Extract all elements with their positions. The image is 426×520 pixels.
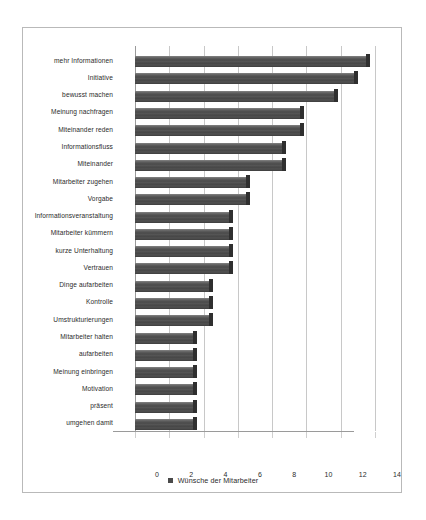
bar [135, 91, 334, 102]
gridline-6 [238, 46, 239, 431]
bar-end-cap [300, 123, 304, 136]
chart-frame: mehr InformationenInitiativebewusst mach… [22, 27, 402, 493]
bar-end-cap [209, 313, 213, 326]
bar [135, 350, 193, 361]
category-label: Mitarbeiter zugehen [28, 178, 113, 186]
bar [135, 177, 246, 188]
category-label: Informationsveranstaltung [28, 212, 113, 220]
x-axis-line [113, 431, 354, 432]
category-label: präsent [28, 402, 113, 410]
category-label: Informationsfluss [28, 143, 113, 151]
bar [135, 315, 209, 326]
axis-tick-mark [135, 432, 136, 438]
bar [135, 333, 193, 344]
bar [135, 194, 246, 205]
category-label: Meinung nachfragen [28, 108, 113, 116]
bar-end-cap [300, 106, 304, 119]
bar-end-cap [193, 417, 197, 430]
bar [135, 229, 229, 240]
bar-end-cap [193, 348, 197, 361]
bar [135, 402, 193, 413]
category-label: Vorgabe [28, 195, 113, 203]
bar-end-cap [229, 227, 233, 240]
bar [135, 384, 193, 395]
axis-tick-mark [238, 432, 239, 438]
bar-end-cap [229, 244, 233, 257]
gridline-12 [341, 46, 342, 431]
category-label: Dinge aufarbeiten [28, 281, 113, 289]
bar-end-cap [282, 158, 286, 171]
bar [135, 125, 300, 136]
bar-end-cap [246, 175, 250, 188]
bar [135, 73, 354, 84]
bar-end-cap [366, 54, 370, 67]
category-label: Miteinander [28, 160, 113, 168]
gridline-10 [306, 46, 307, 431]
category-label: kurze Unterhaltung [28, 247, 113, 255]
bar [135, 108, 300, 119]
plot-area [113, 51, 381, 443]
category-label: Mitarbeiter kümmern [28, 229, 113, 237]
axis-tick-mark [306, 432, 307, 438]
bar-end-cap [193, 382, 197, 395]
bar-end-cap [193, 331, 197, 344]
bar [135, 56, 366, 67]
bar [135, 263, 229, 274]
category-label: umgehen damit [28, 419, 113, 427]
bars-layer [135, 51, 375, 431]
category-label: Kontrolle [28, 298, 113, 306]
legend-label: Wünsche der Mitarbeiter [178, 476, 259, 485]
bar [135, 160, 282, 171]
category-label: mehr Informationen [28, 57, 113, 65]
axis-tick-mark [341, 432, 342, 438]
bar-end-cap [229, 261, 233, 274]
bar [135, 246, 229, 257]
category-label: Initiative [28, 74, 113, 82]
category-label: Meinung einbringen [28, 368, 113, 376]
category-label: Vertrauen [28, 264, 113, 272]
category-label: bewusst machen [28, 91, 113, 99]
bar-end-cap [193, 365, 197, 378]
bar [135, 143, 282, 154]
category-label: Umstrukturierungen [28, 316, 113, 324]
bar [135, 212, 229, 223]
bar-end-cap [193, 400, 197, 413]
bar-end-cap [282, 141, 286, 154]
axis-tick-mark [272, 432, 273, 438]
gridline-8 [272, 46, 273, 431]
bar-end-cap [209, 279, 213, 292]
bar-end-cap [354, 71, 358, 84]
category-label: Motivation [28, 385, 113, 393]
category-label: Miteinander reden [28, 126, 113, 134]
bar-end-cap [246, 192, 250, 205]
axis-tick-mark [375, 432, 376, 438]
category-label: aufarbeiten [28, 350, 113, 358]
axis-tick-mark [204, 432, 205, 438]
chart-legend: Wünsche der Mitarbeiter [23, 471, 403, 489]
bar [135, 419, 193, 430]
category-axis: mehr InformationenInitiativebewusst mach… [28, 51, 113, 443]
bar-end-cap [209, 296, 213, 309]
bar-end-cap [229, 210, 233, 223]
bar [135, 367, 193, 378]
bar-end-cap [334, 89, 338, 102]
legend-entry: Wünsche der Mitarbeiter [168, 471, 259, 489]
bar [135, 298, 209, 309]
gridline-14 [375, 46, 376, 431]
category-label: Mitarbeiter halten [28, 333, 113, 341]
bar [135, 281, 209, 292]
axis-tick-mark [169, 432, 170, 438]
legend-marker-icon [168, 478, 173, 483]
